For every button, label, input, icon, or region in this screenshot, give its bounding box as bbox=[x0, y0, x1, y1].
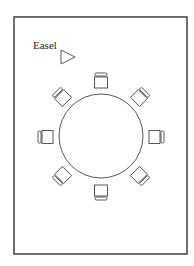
chair-northwest bbox=[52, 87, 72, 107]
round-table bbox=[59, 94, 143, 178]
chair-southwest bbox=[52, 166, 72, 186]
floor-plan-diagram: Easel bbox=[0, 0, 194, 266]
chair-west bbox=[38, 131, 53, 144]
chairs-group bbox=[38, 73, 164, 200]
easel-triangle-icon bbox=[61, 50, 75, 64]
chair-south bbox=[95, 185, 108, 200]
chair-north bbox=[95, 73, 108, 88]
easel-label: Easel bbox=[33, 39, 57, 51]
chair-northeast bbox=[130, 87, 150, 107]
chair-southeast bbox=[130, 166, 150, 186]
chair-east bbox=[149, 131, 164, 144]
